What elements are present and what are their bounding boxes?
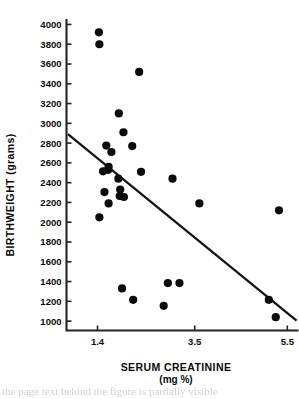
y-tick-label: 3200	[40, 98, 61, 109]
x-axis-units-label: (mg %)	[159, 374, 192, 385]
scatter-chart-figure: 1000120014001600180020002200240026002800…	[0, 0, 299, 399]
data-point	[129, 296, 137, 304]
x-tick-label: 1.4	[91, 336, 105, 347]
x-tick-label: 3.5	[188, 336, 202, 347]
data-point	[115, 109, 123, 117]
y-tick-label: 3400	[40, 78, 61, 89]
data-point	[137, 168, 145, 176]
y-tick-label: 2400	[40, 177, 61, 188]
page-bleed-text-line: the page text behind the figure is parti…	[0, 385, 299, 397]
y-tick-label: 1800	[40, 236, 61, 247]
y-tick-label: 2600	[40, 157, 61, 168]
x-axis-title: SERUM CREATININE	[121, 361, 232, 373]
y-tick-label: 1200	[40, 296, 61, 307]
data-point	[95, 28, 103, 36]
y-tick-label: 2000	[40, 217, 61, 228]
data-point	[128, 142, 136, 150]
data-point	[195, 199, 203, 207]
data-point	[114, 175, 122, 183]
data-point	[272, 313, 280, 321]
data-point	[120, 193, 128, 201]
y-tick-label: 3600	[40, 58, 61, 69]
data-point	[135, 68, 143, 76]
data-point	[95, 213, 103, 221]
data-point	[118, 284, 126, 292]
y-tick-label: 3000	[40, 118, 61, 129]
y-tick-label: 1400	[40, 276, 61, 287]
chart-canvas: 1000120014001600180020002200240026002800…	[0, 0, 299, 399]
y-tick-label: 3800	[40, 39, 61, 50]
y-tick-label: 1600	[40, 256, 61, 267]
data-point	[168, 175, 176, 183]
data-point	[107, 148, 115, 156]
data-point	[102, 141, 110, 149]
y-tick-label: 2200	[40, 197, 61, 208]
y-tick-label: 1000	[40, 316, 61, 327]
data-point	[175, 279, 183, 287]
y-tick-label: 2800	[40, 138, 61, 149]
page-bleed-text: the page text behind the figure is parti…	[0, 385, 299, 399]
data-point	[265, 296, 273, 304]
data-point	[275, 206, 283, 214]
data-point	[95, 40, 103, 48]
y-tick-label: 4000	[40, 19, 61, 30]
data-point	[105, 199, 113, 207]
data-point	[119, 128, 127, 136]
data-point	[99, 167, 107, 175]
data-point	[160, 302, 168, 310]
x-tick-label: 5.5	[281, 336, 295, 347]
y-axis-title: BIRTHWEIGHT (grams)	[4, 133, 16, 256]
data-point	[100, 188, 108, 196]
data-point	[164, 279, 172, 287]
